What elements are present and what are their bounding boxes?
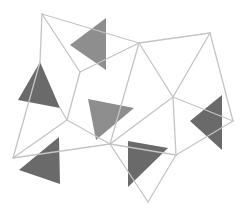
background (0, 0, 246, 210)
geometric-illustration (0, 0, 246, 210)
